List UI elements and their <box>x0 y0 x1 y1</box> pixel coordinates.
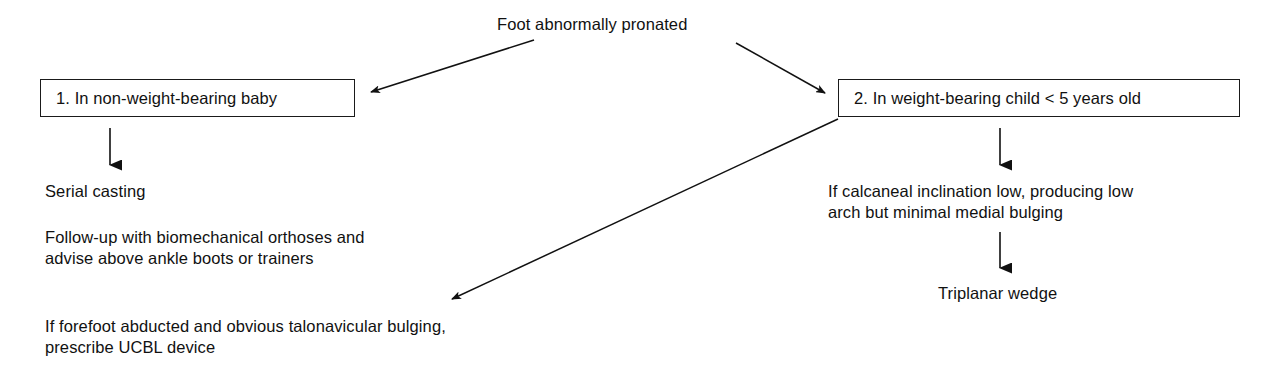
calcaneal-line1-text: If calcaneal inclination low, producing … <box>828 181 1133 202</box>
edge-root-to-branch2 <box>736 43 825 93</box>
flowchart-canvas: Foot abnormally pronated 1. In non-weigh… <box>0 0 1266 369</box>
forefoot-line1-text: If forefoot abducted and obvious talonav… <box>45 316 446 337</box>
branch2-box[interactable]: 2. In weight-bearing child < 5 years old <box>838 79 1240 117</box>
follow-up-line1-text: Follow-up with biomechanical orthoses an… <box>45 227 365 248</box>
calcaneal-line2-text: arch but minimal medial bulging <box>828 202 1063 223</box>
forefoot-line2-text: prescribe UCBL device <box>45 337 215 358</box>
branch2-box-label: 2. In weight-bearing child < 5 years old <box>854 88 1141 109</box>
edge-root-to-branch1 <box>371 40 534 92</box>
root-node-label: Foot abnormally pronated <box>497 14 687 35</box>
serial-casting-text: Serial casting <box>45 181 145 202</box>
branch1-box-label: 1. In non-weight-bearing baby <box>56 88 277 109</box>
edge-branch2-to-ucbl <box>452 119 838 299</box>
branch1-box[interactable]: 1. In non-weight-bearing baby <box>40 79 355 117</box>
triplanar-wedge-text: Triplanar wedge <box>938 283 1057 304</box>
follow-up-line2-text: advise above ankle boots or trainers <box>45 248 314 269</box>
